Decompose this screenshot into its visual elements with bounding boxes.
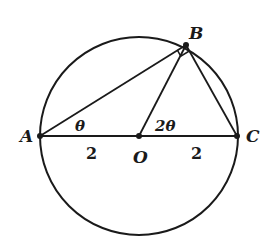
point-O: [136, 133, 142, 139]
length-AO-label: 2: [86, 144, 97, 163]
label-C: C: [246, 126, 260, 146]
label-B: B: [188, 23, 203, 43]
label-O: O: [133, 147, 148, 167]
point-C: [234, 133, 240, 139]
label-A: A: [18, 126, 33, 146]
angle-theta-label: θ: [75, 117, 85, 135]
geometry-diagram: A B C O θ 2θ 2 2: [0, 0, 262, 239]
angle-2theta-label: 2θ: [154, 117, 175, 135]
length-OC-label: 2: [191, 144, 202, 163]
point-A: [37, 133, 43, 139]
segment-BC: [186, 45, 237, 136]
